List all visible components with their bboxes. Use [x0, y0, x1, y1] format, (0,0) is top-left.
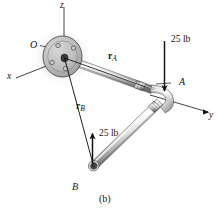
elbow-leader-line	[156, 83, 171, 84]
origin-label: O	[30, 40, 37, 50]
position-vector-a-label: rA	[108, 52, 117, 62]
y-axis-label: y	[209, 111, 213, 121]
vector-a-subscript: A	[112, 54, 117, 63]
figure-illustration	[0, 0, 219, 211]
pipe-assembly-figure: z x y O A B rA rB 25 lb 25 lb (b)	[0, 0, 219, 211]
point-b-label: B	[72, 182, 78, 192]
figure-caption: (b)	[99, 194, 111, 204]
x-axis-label: x	[7, 72, 11, 82]
position-vector-b-label: rB	[76, 102, 85, 112]
flange-plate	[43, 36, 82, 77]
point-a-label: A	[179, 77, 185, 87]
force-label-a: 25 lb	[171, 35, 190, 45]
z-axis-label: z	[60, 1, 64, 11]
force-label-b: 25 lb	[99, 129, 118, 139]
vector-b-subscript: B	[80, 104, 85, 113]
